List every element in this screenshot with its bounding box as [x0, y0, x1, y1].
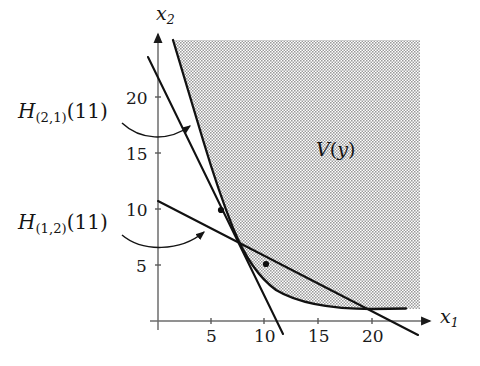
- region-label-name: V: [316, 138, 330, 160]
- hyperplane-12-sub: (1,2): [35, 221, 66, 236]
- leader-arrow-h21: [122, 123, 190, 137]
- x-axis-label-base: x: [440, 305, 451, 327]
- y-tick-label-15: 15: [126, 144, 148, 164]
- figure-canvas: x2 x1 V(y) H(2,1)(11) H(1,2)(11) 5 10 15…: [0, 0, 480, 366]
- y-tick-label-10: 10: [126, 200, 148, 220]
- x-tick-label-20: 20: [362, 326, 384, 346]
- region-label-paren-close: ): [348, 138, 355, 160]
- leader-arrow-h12: [122, 232, 204, 247]
- tangency-point-upper: [218, 207, 224, 213]
- hyperplane-label-1-2: H(1,2)(11): [18, 212, 108, 235]
- x-tick-label-5: 5: [206, 326, 217, 346]
- hyperplane-21-name: H: [18, 99, 35, 123]
- y-axis-label-base: x: [156, 2, 167, 24]
- x-axis-label-sub: 1: [451, 315, 459, 330]
- y-axis-label: x2: [156, 4, 175, 27]
- hyperplane-21-sub: (2,1): [35, 110, 66, 125]
- hyperplane-label-2-1: H(2,1)(11): [18, 101, 108, 124]
- x-tick-label-15: 15: [308, 326, 330, 346]
- x-axis-label: x1: [440, 307, 459, 330]
- tangency-point-lower: [263, 261, 269, 267]
- hyperplane-12-arg: (11): [67, 210, 108, 234]
- hyperplane-12-name: H: [18, 210, 35, 234]
- region-label-vy: V(y): [316, 140, 355, 159]
- y-tick-label-20: 20: [126, 88, 148, 108]
- y-tick-label-5: 5: [136, 256, 147, 276]
- y-axis-label-sub: 2: [167, 12, 175, 27]
- hyperplane-21-arg: (11): [67, 99, 108, 123]
- plot-svg: [0, 0, 480, 366]
- shaded-region-vy: [173, 40, 420, 309]
- x-tick-label-10: 10: [254, 326, 276, 346]
- region-label-arg: y: [337, 138, 348, 160]
